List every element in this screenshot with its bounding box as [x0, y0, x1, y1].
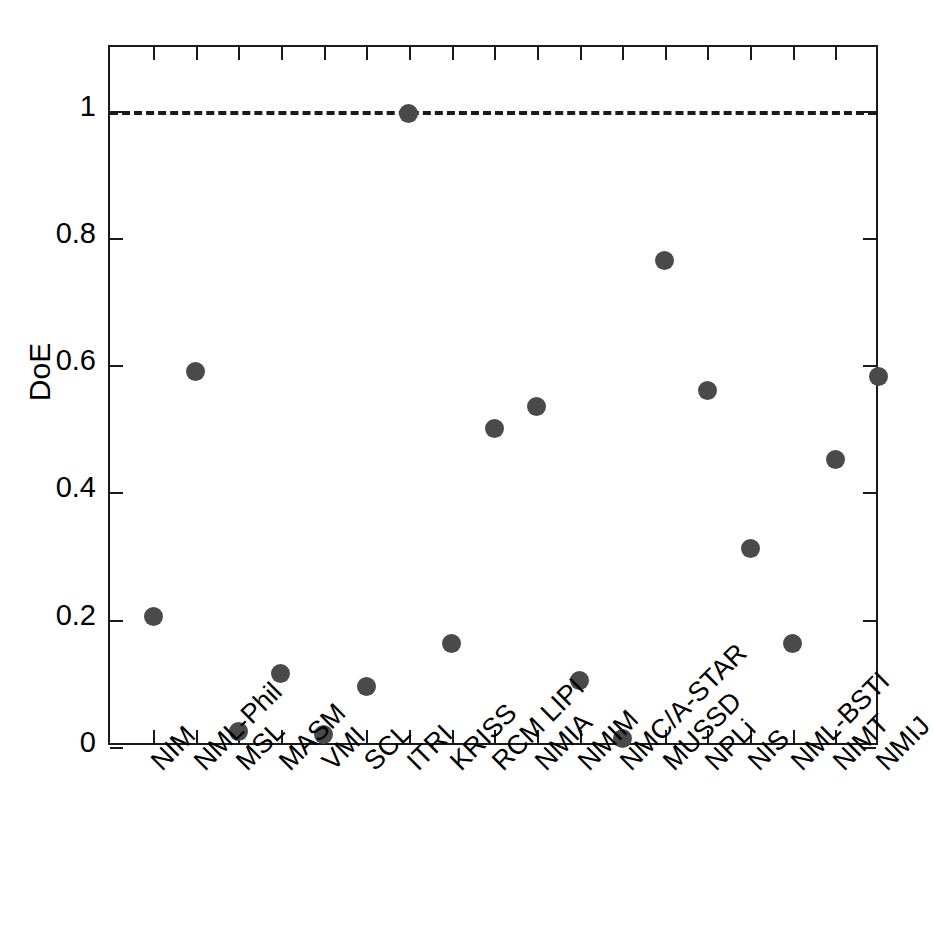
- y-axis-tick-mark: [110, 111, 123, 113]
- x-axis-tick-mark-top: [835, 47, 837, 60]
- data-point: [869, 367, 888, 386]
- x-axis-tick-mark-top: [324, 47, 326, 60]
- y-axis-tick-label: 0.6: [0, 344, 96, 377]
- data-point: [442, 634, 461, 653]
- x-axis-tick-mark-top: [366, 47, 368, 60]
- y-axis-tick-mark-right: [863, 620, 876, 622]
- x-axis-tick-mark-top: [409, 47, 411, 60]
- data-point: [527, 397, 546, 416]
- y-axis-tick-label: 1: [0, 90, 96, 123]
- x-axis-tick-mark-top: [665, 47, 667, 60]
- data-point: [826, 450, 845, 469]
- y-axis-tick-mark: [110, 620, 123, 622]
- reference-line-doe-1: [110, 111, 876, 115]
- y-axis-tick-label: 0.4: [0, 471, 96, 504]
- x-axis-tick-mark-top: [452, 47, 454, 60]
- x-axis-tick-mark-top: [622, 47, 624, 60]
- x-axis-tick-mark-top: [537, 47, 539, 60]
- y-axis-tick-label: 0.8: [0, 217, 96, 250]
- x-axis-tick-mark-top: [707, 47, 709, 60]
- data-point: [485, 419, 504, 438]
- x-axis-tick-mark-top: [580, 47, 582, 60]
- y-axis-tick-mark: [110, 365, 123, 367]
- data-point: [399, 104, 418, 123]
- data-point: [698, 381, 717, 400]
- x-axis-tick-mark-top: [196, 47, 198, 60]
- data-point: [271, 664, 290, 683]
- x-axis-tick-mark-top: [793, 47, 795, 60]
- x-axis-tick-mark-top: [153, 47, 155, 60]
- data-point: [357, 677, 376, 696]
- x-axis-tick-mark: [793, 730, 795, 743]
- y-axis-tick-mark: [110, 238, 123, 240]
- data-point: [783, 634, 802, 653]
- x-axis-tick-mark-top: [494, 47, 496, 60]
- data-point: [655, 251, 674, 270]
- data-point: [186, 362, 205, 381]
- y-axis-tick-mark-right: [863, 111, 876, 113]
- x-axis-tick-mark-top: [238, 47, 240, 60]
- y-axis-tick-mark: [110, 492, 123, 494]
- data-point: [144, 607, 163, 626]
- y-axis-tick-mark-right: [863, 492, 876, 494]
- x-axis-tick-mark: [153, 730, 155, 743]
- y-axis-tick-mark: [110, 747, 123, 749]
- y-axis-tick-label: 0.2: [0, 599, 96, 632]
- x-axis-tick-mark-top: [750, 47, 752, 60]
- plot-area: [108, 45, 878, 745]
- y-axis-tick-mark-right: [863, 238, 876, 240]
- x-axis-tick-mark-top: [281, 47, 283, 60]
- y-axis-tick-label: 0: [0, 726, 96, 759]
- data-point: [741, 539, 760, 558]
